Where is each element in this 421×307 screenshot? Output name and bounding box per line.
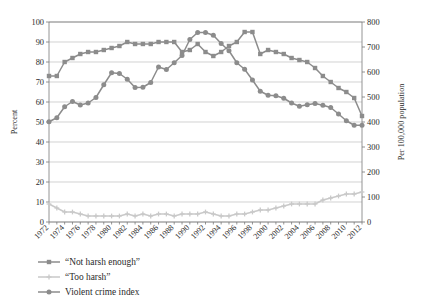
- data-point: [297, 104, 302, 109]
- data-point: [235, 40, 239, 44]
- data-point: [219, 50, 223, 54]
- x-tick-label: 2006: [299, 223, 317, 241]
- data-point: [305, 60, 309, 64]
- legend-marker: [47, 260, 51, 264]
- x-tick-label: 1984: [126, 223, 144, 241]
- data-point: [133, 42, 137, 46]
- x-tick-label: 1986: [142, 223, 160, 241]
- right-axis-ticks: 0100200300400500600700800: [362, 18, 380, 227]
- y-tick-label: 70: [36, 78, 44, 87]
- y2-tick-label: 500: [367, 93, 380, 102]
- data-point: [211, 33, 216, 38]
- data-point: [344, 90, 348, 94]
- data-point: [250, 30, 254, 34]
- data-point: [180, 53, 185, 58]
- x-tick-label: 2002: [267, 223, 285, 241]
- data-point: [360, 114, 364, 118]
- data-point: [321, 74, 325, 78]
- data-point: [242, 67, 247, 72]
- data-point: [203, 50, 207, 54]
- data-point: [289, 56, 293, 60]
- x-tick-label: 1998: [236, 223, 254, 241]
- data-point: [274, 50, 278, 54]
- y-tick-label: 30: [36, 158, 44, 167]
- data-point: [313, 101, 318, 106]
- y2-tick-label: 300: [367, 143, 380, 152]
- data-point: [47, 74, 51, 78]
- chart-figure: 0102030405060708090100010020030040050060…: [0, 0, 421, 307]
- data-point: [282, 52, 286, 56]
- y-tick-label: 40: [36, 138, 44, 147]
- data-point: [54, 115, 59, 120]
- y-tick-label: 90: [36, 38, 44, 47]
- y2-tick-label: 700: [367, 43, 380, 52]
- data-point: [149, 42, 153, 46]
- data-point: [101, 82, 106, 87]
- y2-tick-label: 600: [367, 68, 380, 77]
- data-point: [62, 104, 67, 109]
- y2-tick-label: 400: [367, 118, 380, 127]
- data-point: [94, 50, 98, 54]
- y2-tick-label: 800: [367, 18, 380, 27]
- data-point: [344, 118, 349, 123]
- data-point: [117, 44, 121, 48]
- x-tick-label: 1972: [32, 223, 50, 241]
- x-axis-ticks: 1972197419761978198019821984198619881990…: [32, 222, 363, 241]
- data-point: [86, 101, 91, 106]
- x-tick-label: 1996: [220, 223, 238, 241]
- data-point: [297, 58, 301, 62]
- x-tick-label: 1980: [95, 223, 113, 241]
- y2-tick-label: 200: [367, 168, 380, 177]
- data-point: [289, 101, 294, 106]
- data-point: [164, 40, 168, 44]
- right-axis-title: Per 100,000 population: [397, 84, 406, 161]
- series-line: [49, 33, 362, 126]
- data-point: [187, 37, 192, 42]
- data-point: [78, 52, 82, 56]
- data-point: [133, 85, 138, 90]
- data-point: [93, 95, 98, 100]
- legend-item-2: Violent crime index: [38, 287, 140, 297]
- data-point: [329, 80, 333, 84]
- x-tick-label: 2008: [314, 223, 332, 241]
- data-point: [219, 41, 224, 46]
- data-point: [148, 80, 153, 85]
- data-point: [258, 89, 263, 94]
- data-point: [125, 40, 129, 44]
- series-2: [47, 30, 365, 128]
- data-point: [156, 40, 160, 44]
- data-point: [242, 30, 246, 34]
- data-point: [141, 42, 145, 46]
- data-point: [227, 44, 231, 48]
- x-tick-label: 1976: [64, 223, 82, 241]
- y-tick-label: 50: [36, 118, 44, 127]
- data-point: [125, 77, 130, 82]
- data-point: [140, 85, 145, 90]
- data-point: [172, 40, 176, 44]
- y-tick-label: 100: [31, 18, 44, 27]
- x-tick-label: 1992: [189, 223, 207, 241]
- data-point: [226, 48, 231, 53]
- data-point: [102, 48, 106, 52]
- data-point: [258, 52, 262, 56]
- data-point: [336, 86, 340, 90]
- data-point: [156, 65, 161, 70]
- y-tick-label: 60: [36, 98, 44, 107]
- data-point: [172, 60, 177, 65]
- left-axis-title: Percent: [10, 109, 19, 134]
- x-tick-label: 1982: [111, 223, 129, 241]
- data-point: [195, 42, 199, 46]
- x-tick-label: 1978: [79, 223, 97, 241]
- legend-item-0: “Not harsh enough”: [38, 257, 140, 267]
- data-point: [273, 93, 278, 98]
- data-point: [203, 30, 208, 35]
- data-point: [70, 56, 74, 60]
- x-tick-label: 2010: [330, 223, 348, 241]
- data-point: [86, 50, 90, 54]
- data-point: [62, 60, 66, 64]
- series-1: [47, 190, 365, 219]
- legend-marker: [47, 290, 52, 295]
- data-point: [320, 103, 325, 108]
- data-point: [250, 78, 255, 83]
- data-point: [211, 54, 215, 58]
